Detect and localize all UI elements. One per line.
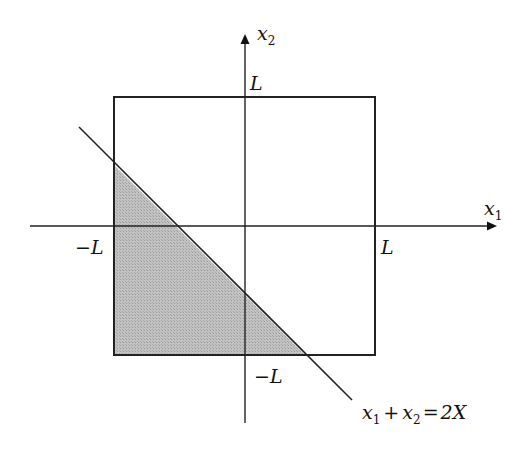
- diagram-svg: x2 x1 L −L L −L x1+x2=2X: [0, 0, 523, 453]
- y-axis-label: x2: [257, 22, 275, 48]
- tick-y-neg: −L: [254, 365, 283, 387]
- y-axis-arrow-icon: [241, 34, 250, 44]
- equation-label: x1+x2=2X: [362, 401, 468, 427]
- tick-x-pos: L: [380, 236, 394, 258]
- diagram-canvas: x2 x1 L −L L −L x1+x2=2X: [0, 0, 523, 453]
- tick-y-pos: L: [249, 72, 263, 94]
- x-axis-label: x1: [484, 197, 502, 223]
- shaded-region: [114, 165, 305, 355]
- tick-x-neg: −L: [75, 236, 104, 258]
